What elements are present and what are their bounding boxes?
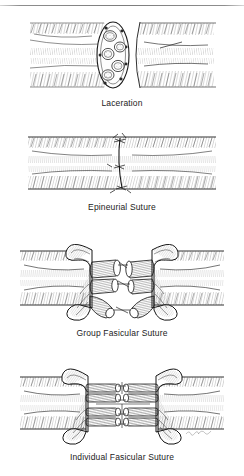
- nerve-cross-section: [97, 22, 129, 88]
- figure-sheet: Laceration: [0, 0, 244, 476]
- panel-group-fascicular-suture: Group Fasicular Suture: [0, 232, 244, 339]
- caption-laceration: Laceration: [0, 98, 244, 109]
- illustration-individual-fascicular-suture: [0, 356, 244, 450]
- repaired-nerve-trunk: [28, 136, 216, 190]
- caption-wrap-individual: Individual Fasicular Suture: [0, 450, 244, 463]
- illustration-laceration: [0, 14, 244, 96]
- proximal-stump: [28, 22, 108, 88]
- caption-wrap-group: Group Fasicular Suture: [0, 326, 244, 339]
- caption-epineurial-suture: Epineurial Suture: [0, 202, 244, 213]
- artist-signature: [186, 431, 211, 435]
- caption-group-fascicular-suture: Group Fasicular Suture: [0, 328, 244, 339]
- fascicle-group-right: [126, 260, 154, 319]
- distal-stump: [136, 22, 216, 88]
- panel-laceration: Laceration: [0, 14, 244, 109]
- caption-wrap-epineurial: Epineurial Suture: [0, 200, 244, 213]
- caption-wrap-laceration: Laceration: [0, 96, 244, 109]
- panel-individual-fascicular-suture: Individual Fasicular Suture: [0, 356, 244, 463]
- top-divider-rule: [0, 5, 244, 6]
- fascicle-group-left: [90, 260, 120, 319]
- caption-individual-fascicular-suture: Individual Fasicular Suture: [0, 452, 244, 463]
- illustration-group-fascicular-suture: [0, 232, 244, 326]
- illustration-epineurial-suture: [0, 126, 244, 200]
- panel-epineurial-suture: Epineurial Suture: [0, 126, 244, 213]
